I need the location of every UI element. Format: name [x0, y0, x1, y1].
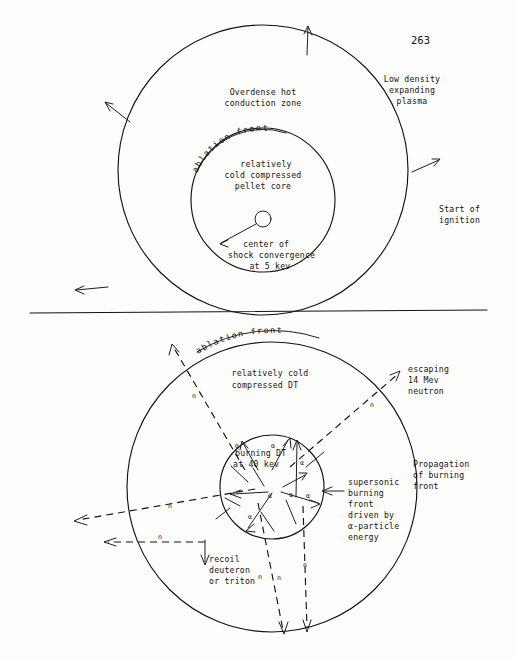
start-of-ignition-label-line2: ignition: [439, 215, 480, 225]
supersonic-front-pointer: [322, 487, 344, 495]
supersonic-label-line2: burning: [348, 488, 384, 498]
propagation-label-line3: front: [413, 481, 439, 491]
alpha-mark-4: α: [306, 492, 310, 500]
neutron-mark-upper-right: n: [370, 401, 374, 409]
neutron-mark-bottom-right: n: [303, 561, 307, 569]
alpha-mark-5: α: [248, 513, 252, 521]
recoil-label-line2: deuteron: [209, 565, 250, 575]
top-figure-group: ablation front Overdense hot conduction …: [30, 25, 487, 315]
neutron-mark-bottom-center: n: [277, 574, 281, 582]
low-density-plasma-label-line2: expanding: [389, 85, 435, 95]
neutron-mark-left-lower: n: [158, 533, 162, 541]
shock-convergence-label-line3: at 5 kev: [249, 261, 290, 271]
page-number: 263: [411, 34, 430, 46]
expansion-arrow-lower-left: [75, 286, 108, 294]
overdense-zone-label-line1: Overdense hot: [230, 87, 297, 97]
cold-dt-label-line1: relatively cold: [232, 368, 309, 378]
scanned-page: ablation front Overdense hot conduction …: [0, 0, 517, 659]
alpha-mark-6: α: [268, 492, 272, 500]
neutron-track-left-lower: n: [104, 533, 205, 546]
expansion-arrow-upper-left: [105, 102, 130, 122]
escaping-neutron-label-line3: neutron: [408, 386, 444, 396]
supersonic-label-line5: α-particle: [348, 521, 399, 531]
alpha-mark-7: α: [289, 491, 293, 499]
supersonic-label-line4: driven by: [348, 510, 394, 520]
neutron-mark-left-upper: n: [168, 502, 172, 510]
shock-convergence-label-line2: shock convergence: [228, 250, 315, 260]
neutron-track-left-upper: n: [74, 489, 255, 525]
bottom-figure-group: ablation front relatively cold compresse…: [74, 325, 469, 634]
bottom-ablation-front-label: ablation front: [194, 325, 283, 356]
shock-convergence-label-line1: center of: [243, 239, 289, 249]
supersonic-label-line3: front: [348, 499, 374, 509]
neutron-track-bottom-center: n: [258, 503, 288, 634]
cold-dt-label-line2: compressed DT: [232, 380, 299, 390]
supersonic-label-line1: supersonic: [348, 477, 399, 487]
shock-convergence-circle: [255, 211, 271, 227]
pellet-core-label-line2: cold compressed: [225, 170, 302, 180]
escaping-neutron-label-line1: escaping: [408, 364, 449, 374]
recoil-label-line1: recoil: [209, 554, 240, 564]
baseline-rule: [30, 310, 487, 313]
propagation-label-line2: of burning: [413, 470, 464, 480]
neutron-mark-recoil: n: [258, 573, 262, 581]
burning-dt-label-line1: burning DT: [235, 448, 286, 458]
supersonic-label-line6: energy: [348, 532, 379, 542]
alpha-mark-3: α: [300, 459, 304, 467]
figure-canvas: ablation front Overdense hot conduction …: [0, 0, 517, 659]
pellet-core-label-line1: relatively: [240, 159, 291, 169]
expansion-arrow-top: [304, 26, 312, 55]
neutron-mark-upper-left: n: [192, 392, 196, 400]
escaping-neutron-label-line2: 14 Mev: [408, 375, 439, 385]
pellet-core-label-line3: pellet core: [235, 181, 291, 191]
recoil-label-line3: or triton: [209, 576, 255, 586]
expansion-arrow-right: [412, 159, 440, 172]
burning-dt-label-line2: at 40 kev: [233, 459, 279, 469]
start-of-ignition-label-line1: Start of: [439, 204, 480, 214]
neutron-track-upper-right: n: [290, 371, 400, 467]
low-density-plasma-label-line3: plasma: [397, 96, 428, 106]
propagation-label-line1: Propagation: [413, 459, 469, 469]
overdense-zone-label-line2: conduction zone: [225, 98, 302, 108]
low-density-plasma-label-line1: Low density: [384, 74, 440, 84]
recoil-deuteron-arrow: [201, 540, 209, 565]
